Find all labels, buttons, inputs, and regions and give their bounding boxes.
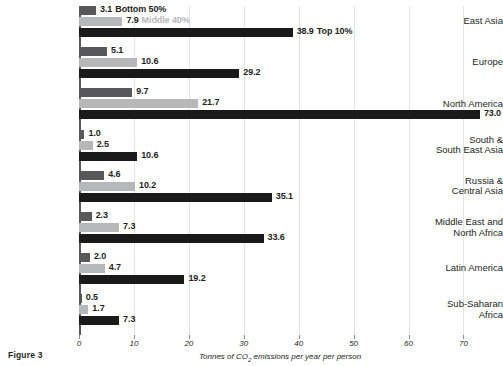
- bar-group: 0.51.77.3: [79, 294, 481, 327]
- bar-value-label: 7.3: [123, 221, 135, 231]
- subscript-two: 2: [248, 357, 251, 363]
- bar-value-number: 1.0: [88, 128, 100, 138]
- bar-top10[interactable]: [79, 152, 137, 161]
- bar-middle40[interactable]: [79, 305, 88, 314]
- bar-middle40[interactable]: [79, 99, 198, 108]
- bar-bottom50[interactable]: [79, 47, 107, 56]
- bar-top10[interactable]: [79, 28, 293, 37]
- bar-middle40[interactable]: [79, 182, 135, 191]
- bar-row[interactable]: 21.7: [79, 99, 481, 108]
- bar-row[interactable]: 9.7: [79, 88, 481, 97]
- x-tick-label: 60: [404, 339, 413, 348]
- x-tick-label: 10: [129, 339, 138, 348]
- bar-row[interactable]: 7.9Middle 40%: [79, 17, 481, 26]
- category-label: North America: [429, 99, 503, 110]
- bar-value-number: 73.0: [484, 108, 501, 118]
- bar-value-number: 2.5: [97, 139, 109, 149]
- bar-top10[interactable]: [79, 69, 239, 78]
- bar-row[interactable]: 2.0: [79, 253, 481, 262]
- bar-value-label: 38.9Top 10%: [297, 26, 353, 36]
- bar-row[interactable]: 33.6: [79, 234, 481, 243]
- bar-value-number: 4.6: [108, 169, 120, 179]
- bar-value-label: 0.5: [86, 292, 98, 302]
- bar-row[interactable]: 4.7: [79, 264, 481, 273]
- bar-group: 1.02.510.6: [79, 130, 481, 163]
- bar-value-label: 4.6: [108, 169, 120, 179]
- bar-value-number: 5.1: [111, 45, 123, 55]
- category-label: Latin America: [429, 263, 503, 274]
- bar-bottom50[interactable]: [79, 6, 96, 15]
- bar-row[interactable]: 7.3: [79, 223, 481, 232]
- bar-value-number: 21.7: [202, 97, 219, 107]
- bar-group: 3.1Bottom 50%7.9Middle 40%38.9Top 10%: [79, 6, 481, 39]
- bar-value-label: 3.1Bottom 50%: [100, 4, 166, 14]
- bar-value-label: 10.6: [141, 150, 158, 160]
- bar-row[interactable]: 10.6: [79, 152, 481, 161]
- bar-value-number: 10.6: [141, 150, 158, 160]
- bar-row[interactable]: 10.6: [79, 58, 481, 67]
- bar-row[interactable]: 1.7: [79, 305, 481, 314]
- bar-value-label: 73.0: [484, 108, 501, 118]
- bar-group: 2.04.719.2: [79, 253, 481, 286]
- bar-value-label: 21.7: [202, 97, 219, 107]
- bar-value-number: 10.6: [141, 56, 158, 66]
- x-tick-label: 70: [459, 339, 468, 348]
- bar-top10[interactable]: [79, 234, 264, 243]
- co2-emissions-bar-chart: 3.1Bottom 50%7.9Middle 40%38.9Top 10%5.1…: [0, 0, 503, 366]
- bar-top10[interactable]: [79, 316, 119, 325]
- bar-row[interactable]: 73.0: [79, 110, 481, 119]
- bar-value-number: 2.0: [94, 251, 106, 261]
- bar-value-label: 2.5: [97, 139, 109, 149]
- x-tick-label: 30: [239, 339, 248, 348]
- bar-bottom50[interactable]: [79, 212, 92, 221]
- bar-row[interactable]: 35.1: [79, 193, 481, 202]
- bar-top10[interactable]: [79, 110, 480, 119]
- bar-group: 5.110.629.2: [79, 47, 481, 80]
- category-label: East Asia: [429, 16, 503, 27]
- bar-value-label: 7.9Middle 40%: [126, 15, 189, 25]
- bar-value-label: 29.2: [243, 67, 260, 77]
- bar-row[interactable]: 0.5: [79, 294, 481, 303]
- bar-row[interactable]: 10.2: [79, 182, 481, 191]
- bar-top10[interactable]: [79, 193, 272, 202]
- category-label: Russia & Central Asia: [429, 176, 503, 197]
- legend-label-bottom50: Bottom 50%: [115, 4, 166, 14]
- bar-row[interactable]: 1.0: [79, 130, 481, 139]
- bar-middle40[interactable]: [79, 264, 105, 273]
- bar-row[interactable]: 5.1: [79, 47, 481, 56]
- bar-row[interactable]: 3.1Bottom 50%: [79, 6, 481, 15]
- bar-middle40[interactable]: [79, 17, 122, 26]
- bar-value-label: 10.2: [139, 180, 156, 190]
- bar-bottom50[interactable]: [79, 130, 84, 139]
- bar-row[interactable]: 38.9Top 10%: [79, 28, 481, 37]
- bar-row[interactable]: 2.3: [79, 212, 481, 221]
- bar-value-number: 4.7: [109, 262, 121, 272]
- bar-row[interactable]: 4.6: [79, 171, 481, 180]
- x-tick-label: 40: [294, 339, 303, 348]
- bar-group: 9.721.773.0: [79, 88, 481, 121]
- legend-label-middle40: Middle 40%: [142, 15, 190, 25]
- bar-bottom50[interactable]: [79, 88, 132, 97]
- bar-bottom50[interactable]: [79, 294, 82, 303]
- bar-row[interactable]: 7.3: [79, 316, 481, 325]
- bar-row[interactable]: 19.2: [79, 275, 481, 284]
- bar-middle40[interactable]: [79, 58, 137, 67]
- bar-group: 2.37.333.6: [79, 212, 481, 245]
- bar-row[interactable]: 29.2: [79, 69, 481, 78]
- bar-bottom50[interactable]: [79, 253, 90, 262]
- bar-bottom50[interactable]: [79, 171, 104, 180]
- x-tick-label: 50: [349, 339, 358, 348]
- x-axis: 010203040506070: [79, 335, 481, 351]
- bar-group: 4.610.235.1: [79, 171, 481, 204]
- bar-value-number: 7.3: [123, 221, 135, 231]
- bar-value-number: 33.6: [268, 232, 285, 242]
- bar-middle40[interactable]: [79, 223, 119, 232]
- x-tick-label: 20: [184, 339, 193, 348]
- bar-value-label: 33.6: [268, 232, 285, 242]
- bar-value-number: 29.2: [243, 67, 260, 77]
- bar-value-label: 7.3: [123, 314, 135, 324]
- bar-middle40[interactable]: [79, 141, 93, 150]
- bar-row[interactable]: 2.5: [79, 141, 481, 150]
- bar-top10[interactable]: [79, 275, 184, 284]
- category-label: South & South East Asia: [429, 135, 503, 156]
